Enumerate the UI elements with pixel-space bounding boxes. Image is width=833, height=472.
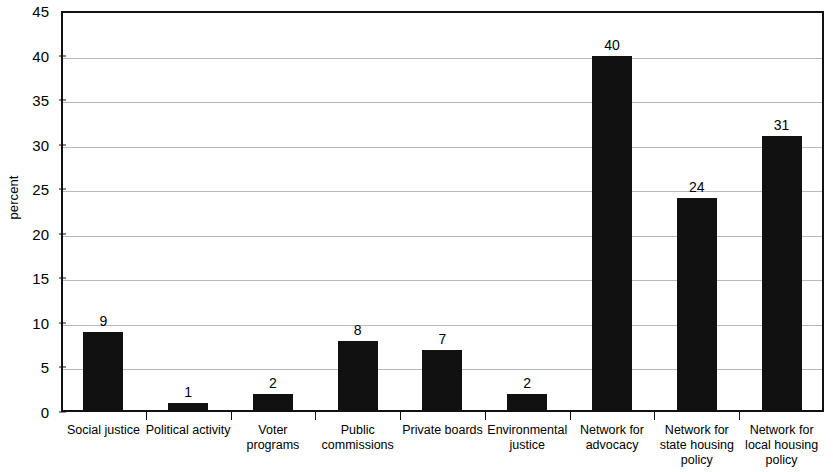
x-axis-category-label: Network for local housing policy	[739, 423, 824, 468]
y-axis-tick-label: 10	[0, 315, 49, 330]
x-axis-category-label: Public commissions	[315, 423, 400, 453]
y-axis-tick-label: 35	[0, 93, 49, 108]
bar-slot: 2	[485, 11, 570, 412]
y-axis-tick-label: 20	[0, 226, 49, 241]
y-axis-tick-label: 30	[0, 137, 49, 152]
bar-value-label: 2	[269, 376, 277, 390]
bar[interactable]	[422, 350, 462, 412]
bar-chart: percent 051015202530354045 912872402431 …	[0, 0, 833, 472]
x-axis-tick-mark	[485, 412, 486, 420]
x-axis-tick-mark	[146, 412, 147, 420]
y-axis-tick-label: 45	[0, 4, 49, 19]
bar[interactable]	[253, 394, 293, 412]
bar[interactable]	[592, 56, 632, 412]
bar[interactable]	[338, 341, 378, 412]
x-axis-category-label: Private boards	[400, 423, 485, 438]
x-axis-category-label: Voter programs	[231, 423, 316, 453]
bar-value-label: 2	[523, 376, 531, 390]
y-axis-tick-label: 5	[0, 360, 49, 375]
bar-value-label: 40	[604, 38, 620, 52]
bar-value-label: 9	[99, 314, 107, 328]
bar-slot: 40	[570, 11, 655, 412]
x-axis-tick-mark	[231, 412, 232, 420]
bar-slot: 9	[61, 11, 146, 412]
x-axis-category-label: Social justice	[61, 423, 146, 438]
y-axis-tick-label: 40	[0, 48, 49, 63]
bar-value-label: 31	[774, 118, 790, 132]
x-axis-tick-mark	[739, 412, 740, 420]
bar-slot: 2	[231, 11, 316, 412]
bar-slot: 7	[400, 11, 485, 412]
x-axis-category-label: Political activity	[146, 423, 231, 438]
bar-slot: 1	[146, 11, 231, 412]
x-axis-tick-mark	[570, 412, 571, 420]
bar-slot: 8	[315, 11, 400, 412]
x-axis-category-label: Network for state housing policy	[654, 423, 739, 468]
bar[interactable]	[507, 394, 547, 412]
bar-value-label: 24	[689, 180, 705, 194]
bar-value-label: 1	[184, 385, 192, 399]
x-axis-tick-mark	[315, 412, 316, 420]
bar[interactable]	[83, 332, 123, 412]
y-axis-tick-label: 0	[0, 405, 49, 420]
bar-slot: 24	[654, 11, 739, 412]
x-axis-tick-mark	[654, 412, 655, 420]
bar-value-label: 8	[354, 323, 362, 337]
bar[interactable]	[168, 403, 208, 412]
bars-layer: 912872402431	[61, 11, 824, 412]
x-axis-category-label: Environmental justice	[485, 423, 570, 453]
y-axis-tick-label: 15	[0, 271, 49, 286]
y-axis-tick-label: 25	[0, 182, 49, 197]
bar-slot: 31	[739, 11, 824, 412]
x-axis-category-label: Network for advocacy	[570, 423, 655, 453]
bar[interactable]	[677, 198, 717, 412]
bar-value-label: 7	[439, 332, 447, 346]
bar[interactable]	[762, 136, 802, 412]
x-axis-tick-mark	[400, 412, 401, 420]
